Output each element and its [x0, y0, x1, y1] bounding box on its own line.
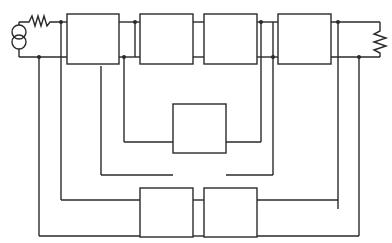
block-feedback-bottom-left: [140, 188, 193, 237]
block-1: [67, 14, 119, 64]
current-source-icon: [12, 22, 26, 57]
junction-dots: [37, 20, 361, 59]
source-resistor-icon: [19, 16, 62, 26]
block-3: [204, 14, 257, 64]
block-2: [140, 14, 193, 64]
block-feedback-bottom-right: [204, 188, 257, 237]
block-4: [278, 14, 331, 64]
circuit-diagram: [0, 0, 392, 243]
wiring: [19, 22, 380, 236]
block-feedback-middle: [173, 104, 226, 153]
load-resistor-icon: [374, 22, 386, 57]
